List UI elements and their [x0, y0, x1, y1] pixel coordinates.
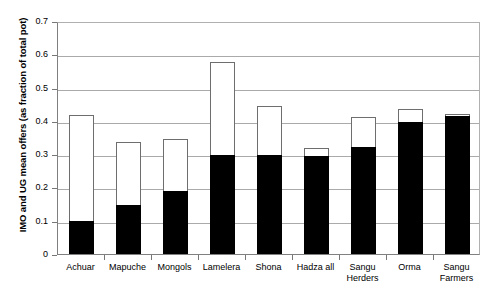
bar-imo-mongols: [163, 191, 188, 254]
x-tick-label-achuar: Achuar: [57, 262, 104, 273]
x-tick-label-sangu-herders: Sangu Herders: [339, 262, 386, 284]
x-tick-mark: [198, 255, 199, 260]
bar-group: [445, 21, 470, 254]
bar-group: [304, 21, 329, 254]
x-tick-label-mapuche: Mapuche: [104, 262, 151, 273]
bar-group: [116, 21, 141, 254]
x-tick-label-lamelera: Lamelera: [198, 262, 245, 273]
bar-imo-sangu-herders: [351, 147, 376, 254]
bar-group: [398, 21, 423, 254]
y-tick-label-0.2: 0.2: [20, 183, 48, 192]
bar-imo-mapuche: [116, 205, 141, 254]
x-tick-label-sangu-farmers: Sangu Farmers: [433, 262, 480, 284]
y-tick-label-0.3: 0.3: [20, 150, 48, 159]
x-tick-mark: [433, 255, 434, 260]
y-tick-label-0: 0: [20, 250, 48, 259]
y-tick-label-0.1: 0.1: [20, 217, 48, 226]
x-tick-label-mongols: Mongols: [151, 262, 198, 273]
y-tick-label-0.6: 0.6: [20, 50, 48, 59]
bar-imo-orma: [398, 122, 423, 254]
plot-area: [57, 22, 480, 255]
bar-imo-achuar: [69, 221, 94, 254]
y-tick-label-0.5: 0.5: [20, 84, 48, 93]
x-tick-mark: [386, 255, 387, 260]
x-tick-mark: [292, 255, 293, 260]
x-tick-label-hadza-all: Hadza all: [292, 262, 339, 273]
x-tick-label-orma: Orma: [386, 262, 433, 273]
bar-imo-hadza-all: [304, 156, 329, 254]
bar-group: [257, 21, 282, 254]
x-tick-mark: [245, 255, 246, 260]
bar-group: [69, 21, 94, 254]
bar-chart: IMO and UG mean offers (as fraction of t…: [0, 0, 486, 305]
bar-group: [351, 21, 376, 254]
y-tick-mark-0: [52, 255, 57, 256]
bar-group: [210, 21, 235, 254]
bar-imo-shona: [257, 155, 282, 254]
y-tick-label-0.7: 0.7: [20, 17, 48, 26]
x-tick-mark: [339, 255, 340, 260]
x-tick-mark: [104, 255, 105, 260]
x-tick-mark: [151, 255, 152, 260]
bar-imo-sangu-farmers: [445, 116, 470, 254]
x-tick-label-shona: Shona: [245, 262, 292, 273]
y-tick-label-0.4: 0.4: [20, 117, 48, 126]
bar-imo-lamelera: [210, 155, 235, 254]
bar-group: [163, 21, 188, 254]
